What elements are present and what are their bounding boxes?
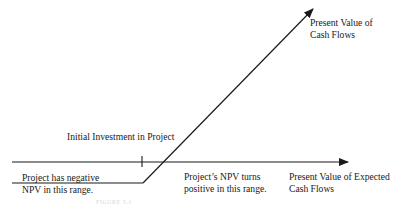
- x-axis-label: Present Value of Expected Cash Flows: [289, 171, 390, 194]
- y-axis-label: Present Value of Cash Flows: [310, 17, 373, 40]
- negative-npv-line1: Project has negative: [22, 172, 99, 184]
- positive-npv-line2: positive in this range.: [184, 183, 267, 195]
- positive-npv-line1: Project’s NPV turns: [184, 171, 267, 183]
- initial-investment-label: Initial Investment in Project: [67, 131, 174, 143]
- negative-npv-label: Project has negative NPV in this range.: [22, 172, 99, 195]
- npv-profile-line: [143, 9, 313, 183]
- x-axis-label-line1: Present Value of Expected: [289, 171, 390, 183]
- x-axis-label-line2: Cash Flows: [289, 183, 390, 195]
- y-axis-label-line2: Cash Flows: [310, 29, 373, 41]
- figure-caption: FIGURE 5.1: [96, 199, 132, 205]
- positive-npv-label: Project’s NPV turns positive in this ran…: [184, 171, 267, 194]
- y-axis-label-line1: Present Value of: [310, 17, 373, 29]
- negative-npv-line2: NPV in this range.: [22, 184, 99, 196]
